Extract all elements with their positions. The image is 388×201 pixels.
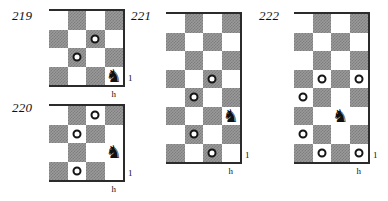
board-square <box>294 125 313 144</box>
board-square <box>185 70 204 89</box>
board-square <box>86 106 105 125</box>
rank-label: 1 <box>128 73 133 83</box>
board-square <box>185 51 204 70</box>
board-square: ♞ <box>331 107 350 126</box>
board-square <box>166 70 185 89</box>
board-square <box>86 162 105 181</box>
board-square <box>166 107 185 126</box>
board-edge-top <box>49 104 125 106</box>
board-square <box>68 48 87 67</box>
board-square <box>166 88 185 107</box>
chess-diagram: 220♞1h <box>0 0 388 201</box>
move-target-ring-icon <box>299 130 308 139</box>
board-square <box>68 67 87 86</box>
diagram-number: 222 <box>259 8 279 24</box>
file-label: h <box>112 184 117 194</box>
piece-square-highlight <box>331 107 350 126</box>
board-square <box>203 144 222 163</box>
board-square <box>49 11 68 30</box>
board-square <box>203 14 222 33</box>
puzzle-sheet: 219♞1h220♞1h221♞1h222♞1h <box>0 0 388 201</box>
board-grid: ♞ <box>166 14 240 162</box>
board-square <box>49 30 68 49</box>
move-target-ring-icon <box>72 129 81 138</box>
rank-label: 1 <box>373 150 378 160</box>
move-target-ring-icon <box>72 166 81 175</box>
board-square <box>86 143 105 162</box>
diagram-number: 219 <box>12 8 32 24</box>
board-square <box>350 107 369 126</box>
board-square <box>203 107 222 126</box>
board-square <box>185 107 204 126</box>
board-square <box>105 106 124 125</box>
file-label: h <box>229 166 234 176</box>
board-square <box>166 125 185 144</box>
board-square <box>49 162 68 181</box>
knight-icon: ♞ <box>332 107 348 125</box>
board-square <box>49 143 68 162</box>
board-square <box>313 125 332 144</box>
move-target-ring-icon <box>317 74 326 83</box>
board-square <box>49 67 68 86</box>
board-square <box>68 30 87 49</box>
chess-board: ♞1h <box>49 106 123 180</box>
board-square <box>105 11 124 30</box>
move-target-ring-icon <box>299 93 308 102</box>
move-target-ring-icon <box>354 74 363 83</box>
board-square <box>222 33 241 52</box>
board-edge-top <box>49 9 125 11</box>
knight-icon: ♞ <box>106 143 122 161</box>
move-target-ring-icon <box>189 130 198 139</box>
board-square <box>294 107 313 126</box>
board-square: ♞ <box>105 67 124 86</box>
board-square <box>331 14 350 33</box>
board-square <box>203 88 222 107</box>
board-square <box>222 88 241 107</box>
diagram-number: 220 <box>12 100 32 116</box>
move-target-ring-icon <box>189 93 198 102</box>
file-label: h <box>112 89 117 99</box>
board-square: ♞ <box>105 143 124 162</box>
board-square <box>350 88 369 107</box>
board-square <box>294 51 313 70</box>
board-square <box>331 33 350 52</box>
board-square <box>350 125 369 144</box>
diagram-number: 221 <box>131 8 151 24</box>
board-grid: ♞ <box>49 106 123 180</box>
board-square <box>313 88 332 107</box>
board-square <box>350 144 369 163</box>
board-square <box>49 106 68 125</box>
board-square <box>49 125 68 144</box>
board-square <box>86 11 105 30</box>
board-square <box>185 125 204 144</box>
board-square <box>222 14 241 33</box>
board-square <box>350 33 369 52</box>
board-square <box>185 144 204 163</box>
board-square <box>185 14 204 33</box>
board-edge-right <box>240 12 242 164</box>
chess-diagram: 219♞1h <box>0 0 388 201</box>
board-square <box>68 11 87 30</box>
board-square <box>222 51 241 70</box>
chess-board: ♞1h <box>294 14 368 162</box>
board-square <box>313 70 332 89</box>
rank-label: 1 <box>128 168 133 178</box>
board-edge-bottom <box>166 162 242 164</box>
board-square <box>331 144 350 163</box>
board-edge-bottom <box>294 162 370 164</box>
piece-square-highlight <box>222 107 241 126</box>
board-square <box>331 125 350 144</box>
board-edge-right <box>123 104 125 182</box>
move-target-ring-icon <box>208 74 217 83</box>
board-square <box>86 30 105 49</box>
board-square <box>294 14 313 33</box>
board-square <box>68 125 87 144</box>
board-square <box>86 48 105 67</box>
board-square <box>313 107 332 126</box>
board-square <box>166 14 185 33</box>
board-square <box>331 70 350 89</box>
knight-icon: ♞ <box>223 107 239 125</box>
chess-board: ♞1h <box>166 14 240 162</box>
board-square <box>222 125 241 144</box>
move-target-ring-icon <box>317 148 326 157</box>
